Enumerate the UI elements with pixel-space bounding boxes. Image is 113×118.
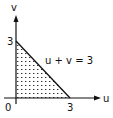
v-axis-arrow-icon xyxy=(14,15,19,22)
v-axis-label: v xyxy=(11,2,17,13)
u-axis-arrow-icon xyxy=(94,96,101,101)
u-axis-label: u xyxy=(103,93,109,104)
line-equation-label: u + v = 3 xyxy=(45,55,93,66)
origin-label: 0 xyxy=(5,102,11,113)
v-intercept-tick-label: 3 xyxy=(7,36,13,47)
diagram-canvas: v u 0 3 3 u + v = 3 xyxy=(0,0,113,118)
u-intercept-tick-label: 3 xyxy=(67,102,73,113)
